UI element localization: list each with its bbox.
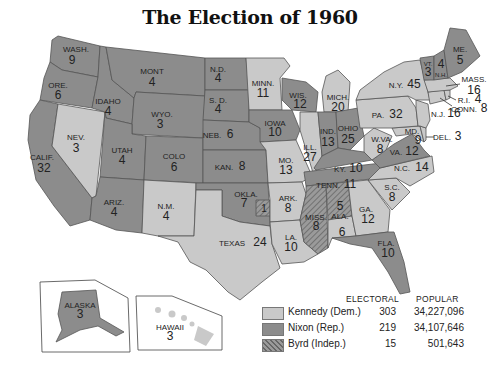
- svg-text:10: 10: [284, 240, 298, 254]
- svg-text:4: 4: [215, 102, 222, 116]
- svg-text:10: 10: [349, 161, 363, 175]
- legend-popular-value: 34,107,646: [398, 322, 464, 333]
- state-kan[interactable]: [203, 150, 268, 183]
- svg-text:CONN.: CONN.: [451, 105, 477, 114]
- svg-text:27: 27: [303, 150, 317, 164]
- legend-electoral-header: ELECTORAL: [346, 294, 399, 304]
- svg-text:WASH.: WASH.: [63, 45, 89, 54]
- svg-text:R.I.: R.I.: [458, 96, 470, 105]
- state-nd[interactable]: [205, 58, 249, 90]
- svg-text:TENN.: TENN.: [316, 181, 340, 190]
- legend-electoral-value: 219: [362, 322, 396, 333]
- svg-text:4: 4: [149, 75, 156, 89]
- svg-text:TEXAS: TEXAS: [219, 239, 245, 248]
- svg-text:4: 4: [111, 205, 118, 219]
- svg-text:3: 3: [77, 307, 84, 321]
- svg-text:3: 3: [167, 329, 174, 343]
- svg-text:KY.: KY.: [334, 165, 346, 174]
- svg-text:3: 3: [157, 117, 164, 131]
- svg-text:NEB.: NEB.: [203, 131, 222, 140]
- svg-text:13: 13: [321, 135, 335, 149]
- svg-text:KAN.: KAN.: [215, 163, 234, 172]
- svg-text:10: 10: [381, 246, 395, 260]
- legend: ELECTORAL POPULAR Kennedy (Dem.) 303 34,…: [262, 294, 492, 354]
- svg-text:12: 12: [293, 97, 307, 111]
- legend-candidate-name: Byrd (Indep.): [288, 338, 346, 349]
- svg-text:14: 14: [415, 160, 429, 174]
- kennedy-swatch: [262, 307, 284, 320]
- svg-text:N.C.: N.C.: [394, 164, 410, 173]
- state-fla[interactable]: [332, 232, 410, 294]
- svg-text:N.J.: N.J.: [431, 110, 445, 119]
- svg-text:3: 3: [425, 65, 432, 79]
- legend-popular-value: 501,643: [398, 338, 464, 349]
- svg-text:8: 8: [239, 159, 246, 173]
- svg-text:9: 9: [69, 53, 76, 67]
- svg-text:PA.: PA.: [372, 111, 384, 120]
- svg-text:DEL.: DEL.: [433, 133, 451, 142]
- svg-text:25: 25: [341, 132, 355, 146]
- state-nj[interactable]: [416, 100, 430, 128]
- legend-electoral-value: 15: [362, 338, 396, 349]
- svg-text:ALA.: ALA.: [331, 212, 348, 221]
- legend-row-byrd: Byrd (Indep.) 15 501,643: [262, 338, 492, 352]
- svg-text:13: 13: [279, 163, 293, 177]
- svg-text:6: 6: [339, 225, 346, 239]
- svg-text:8: 8: [377, 142, 384, 156]
- legend-candidate-name: Kennedy (Dem.): [288, 306, 361, 317]
- svg-text:5: 5: [337, 199, 344, 213]
- svg-text:4: 4: [438, 57, 445, 71]
- svg-text:32: 32: [37, 161, 51, 175]
- svg-text:4: 4: [215, 71, 222, 85]
- svg-text:3: 3: [73, 141, 80, 155]
- legend-popular-header: POPULAR: [416, 294, 459, 304]
- svg-text:20: 20: [331, 100, 345, 114]
- svg-text:N.Y.: N.Y.: [389, 81, 404, 90]
- svg-text:3: 3: [455, 129, 462, 143]
- legend-candidate-name: Nixon (Rep.): [288, 322, 344, 333]
- svg-text:8: 8: [313, 219, 320, 233]
- svg-text:12: 12: [361, 212, 375, 226]
- svg-text:11: 11: [257, 86, 270, 100]
- svg-text:32: 32: [389, 107, 403, 121]
- svg-text:8: 8: [285, 201, 292, 215]
- svg-text:11: 11: [344, 177, 357, 191]
- svg-text:6: 6: [227, 127, 234, 141]
- svg-text:8: 8: [481, 101, 488, 115]
- svg-text:4: 4: [163, 209, 170, 223]
- svg-text:9: 9: [415, 133, 422, 147]
- svg-text:VA.: VA.: [390, 148, 402, 157]
- byrd-swatch: [262, 339, 284, 352]
- nixon-swatch: [262, 323, 284, 336]
- svg-text:10: 10: [268, 125, 282, 139]
- legend-row-kennedy: Kennedy (Dem.) 303 34,227,096: [262, 306, 492, 320]
- svg-text:4: 4: [119, 153, 126, 167]
- svg-text:16: 16: [467, 83, 481, 97]
- svg-text:7: 7: [241, 196, 248, 210]
- svg-text:24: 24: [253, 235, 267, 249]
- state-pa[interactable]: [356, 96, 418, 128]
- svg-text:4: 4: [105, 104, 112, 118]
- legend-electoral-value: 303: [362, 306, 396, 317]
- svg-text:6: 6: [171, 160, 178, 174]
- svg-text:45: 45: [407, 77, 421, 91]
- svg-text:5: 5: [457, 53, 464, 67]
- state-sd[interactable]: [203, 90, 249, 122]
- legend-row-nixon: Nixon (Rep.) 219 34,107,646: [262, 322, 492, 336]
- svg-text:1: 1: [261, 203, 267, 214]
- svg-text:8: 8: [389, 190, 396, 204]
- svg-text:6: 6: [55, 88, 62, 102]
- svg-text:N.H.: N.H.: [435, 72, 447, 78]
- legend-popular-value: 34,227,096: [398, 306, 464, 317]
